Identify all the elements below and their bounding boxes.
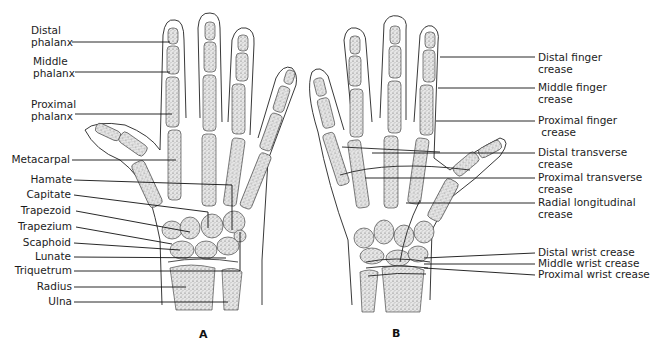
label-distal-finger-crease: Distal finger crease	[538, 52, 602, 75]
label-line: Proximal transverse	[538, 172, 642, 184]
label-line: Middle	[33, 56, 75, 68]
finger-bones-little	[239, 69, 296, 210]
label-line: phalanx	[31, 111, 76, 123]
ulna-bone	[222, 268, 242, 310]
label-line: crease	[538, 159, 627, 171]
finger-bones-ring	[223, 35, 248, 207]
label-line: Middle finger	[538, 82, 607, 94]
label-line: crease	[538, 184, 642, 196]
label-line: crease	[538, 209, 636, 221]
finger-bones-middle	[202, 22, 216, 206]
label-distal-phalanx: Distal phalanx	[31, 25, 73, 48]
label-line: phalanx	[33, 68, 75, 80]
label-radius: Radius	[37, 281, 72, 293]
label-middle-finger-crease: Middle finger crease	[538, 82, 607, 105]
panel-letter-b: B	[392, 327, 400, 340]
label-trapezium: Trapezium	[18, 221, 72, 233]
label-distal-transverse-crease: Distal transverse crease	[538, 147, 627, 170]
label-line: Distal transverse	[538, 147, 627, 159]
label-radial-longitudinal-crease: Radial longitudinal crease	[538, 197, 636, 220]
label-line: Distal	[31, 25, 73, 37]
label-proximal-wrist-crease: Proximal wrist crease	[538, 269, 650, 281]
radius-bone	[170, 265, 215, 310]
label-triquetrum: Triquetrum	[15, 265, 72, 277]
label-hamate: Hamate	[30, 174, 72, 186]
label-proximal-finger-crease: Proximal finger crease	[538, 115, 617, 138]
radius-bone-b	[382, 265, 424, 312]
label-capitate: Capitate	[27, 189, 71, 201]
label-lunate: Lunate	[35, 251, 71, 263]
label-line: crease	[538, 64, 602, 76]
label-line: Distal finger	[538, 52, 602, 64]
panel-letter-a: A	[199, 328, 208, 341]
label-line: Proximal	[31, 99, 76, 111]
label-line: crease	[538, 94, 607, 106]
label-proximal-phalanx: Proximal phalanx	[31, 99, 76, 122]
carpal-bones	[162, 211, 246, 259]
label-metacarpal: Metacarpal	[11, 154, 70, 166]
label-middle-phalanx: Middle phalanx	[33, 56, 75, 79]
thumb-bones	[94, 122, 163, 209]
label-proximal-transverse-crease: Proximal transverse crease	[538, 172, 642, 195]
label-line: Proximal finger	[538, 115, 617, 127]
label-scaphoid: Scaphoid	[23, 237, 71, 249]
finger-bones-b	[313, 26, 503, 223]
label-line: Radial longitudinal	[538, 197, 636, 209]
label-line: phalanx	[31, 37, 73, 49]
hand-b-drawing	[310, 16, 535, 312]
label-line: crease	[538, 127, 617, 139]
hand-a-drawing	[72, 13, 297, 310]
label-trapezoid: Trapezoid	[21, 205, 71, 217]
label-ulna: Ulna	[48, 296, 72, 308]
